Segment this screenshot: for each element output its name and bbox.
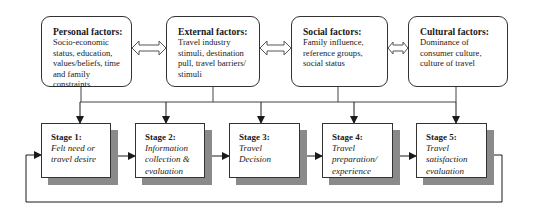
stage-description: Travel Decision: [239, 143, 293, 165]
travel-decision-diagram: Personal factors: Socio-economic status,…: [0, 0, 534, 213]
stage-label: Stage 5:: [426, 132, 480, 143]
stage-card: Stage 1: Felt need or travel desire: [41, 123, 111, 178]
factor-title: Social factors:: [303, 26, 381, 37]
stage-label: Stage 4:: [332, 132, 386, 143]
factor-body: Socio-economic status, education, values…: [53, 37, 125, 90]
factor-box-external: External factors: Travel industry stimul…: [166, 16, 260, 87]
factor-box-cultural: Cultural factors: Dominance of consumer …: [408, 16, 508, 87]
factor-title: External factors:: [178, 26, 253, 37]
factor-body: Dominance of consumer culture, culture o…: [420, 37, 501, 69]
stage-description: Travel satisfaction evaluation: [426, 143, 480, 177]
stage-box-4: Stage 4: Travel preparation/ experience: [322, 123, 393, 178]
stage-box-2: Stage 2: Information collection & evalua…: [135, 123, 205, 178]
factor-body: Travel industry stimuli, destination pul…: [178, 37, 253, 79]
factor-box-social: Social factors: Family influence, refere…: [291, 16, 388, 87]
stage-box-1: Stage 1: Felt need or travel desire: [41, 123, 111, 178]
stage-label: Stage 2:: [145, 132, 198, 143]
stage-box-5: Stage 5: Travel satisfaction evaluation: [416, 123, 487, 178]
stage-description: Felt need or travel desire: [51, 143, 104, 165]
stage-description: Travel preparation/ experience: [332, 143, 386, 177]
factor-title: Cultural factors:: [420, 26, 501, 37]
stage-card: Stage 2: Information collection & evalua…: [135, 123, 205, 178]
stage-card: Stage 4: Travel preparation/ experience: [322, 123, 393, 178]
stage-card: Stage 3: Travel Decision: [229, 123, 300, 178]
factor-body: Family influence, reference groups, soci…: [303, 37, 381, 69]
stage-description: Information collection & evaluation: [145, 143, 198, 177]
stage-label: Stage 1:: [51, 132, 104, 143]
stage-card: Stage 5: Travel satisfaction evaluation: [416, 123, 487, 178]
factor-title: Personal factors:: [53, 26, 125, 37]
stage-label: Stage 3:: [239, 132, 293, 143]
stage-box-3: Stage 3: Travel Decision: [229, 123, 300, 178]
factor-box-personal: Personal factors: Socio-economic status,…: [41, 16, 132, 87]
